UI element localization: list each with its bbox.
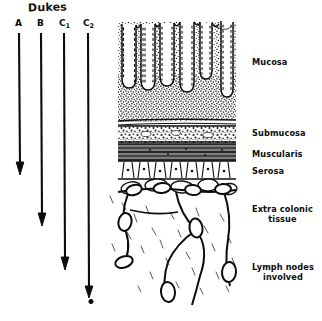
stage-label-B: B [37, 18, 44, 30]
figure-root: Dukes A B C1 C2 Mucosa Submucosa Muscula… [0, 0, 322, 321]
label-extra-colonic-tissue: Extra colonic tissue [252, 205, 313, 224]
muscularis-propria-layer [118, 144, 236, 160]
label-lymph-nodes-involved: Lymph nodes involved [252, 263, 314, 282]
arrow-stage-C2 [85, 33, 93, 304]
lymph-nodes [114, 182, 237, 303]
label-muscularis: Muscularis [252, 150, 303, 160]
arrow-stage-C1 [61, 33, 69, 270]
submucosa-layer [118, 125, 236, 143]
serosa-layer [118, 161, 236, 179]
stage-label-A: A [15, 18, 22, 30]
label-serosa: Serosa [252, 167, 284, 177]
figure-title: Dukes [28, 0, 67, 14]
label-mucosa: Mucosa [252, 58, 287, 68]
arrow-stage-A [16, 33, 24, 175]
stage-arrows [16, 33, 93, 304]
stage-label-C2: C2 [83, 18, 94, 30]
lymphatic-chains [118, 188, 236, 305]
arrow-stage-B [38, 33, 46, 226]
label-submucosa: Submucosa [252, 129, 306, 139]
mucosa-layer [118, 21, 236, 123]
stage-label-C1: C1 [59, 18, 70, 30]
